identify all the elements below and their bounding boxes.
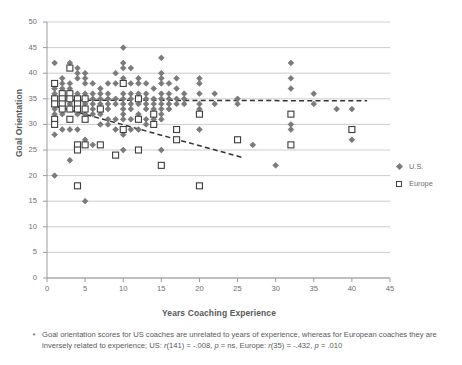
legend-label-europe: Europe [409, 179, 433, 188]
data-point-diamond [212, 101, 218, 107]
data-point-diamond [75, 75, 81, 81]
data-point-diamond [82, 198, 88, 204]
data-point-diamond [113, 81, 119, 87]
legend-item-us[interactable]: U.S. [396, 158, 433, 175]
y-tick-label: 40 [11, 68, 37, 77]
data-point-diamond [197, 91, 203, 97]
data-point-square [97, 142, 103, 148]
data-point-diamond [250, 142, 256, 148]
data-point-diamond [105, 106, 111, 112]
legend-item-europe[interactable]: Europe [396, 175, 433, 192]
data-point-diamond [349, 137, 355, 143]
x-tick-label: 45 [375, 284, 405, 293]
data-point-square [158, 162, 164, 168]
x-tick-label: 5 [70, 284, 100, 293]
data-point-diamond [52, 132, 58, 138]
caption-bullet: * [26, 330, 42, 351]
data-point-square [67, 65, 73, 71]
y-tick-label: 50 [11, 17, 37, 26]
data-point-diamond [158, 147, 164, 153]
data-point-diamond [136, 81, 142, 87]
caption-text: Goal orientation scores for US coaches a… [42, 330, 450, 351]
data-point-diamond [174, 86, 180, 92]
data-point-square [196, 111, 202, 117]
data-point-diamond [212, 91, 218, 97]
data-point-diamond [288, 86, 294, 92]
x-tick-label: 15 [146, 284, 176, 293]
data-point-square [67, 116, 73, 122]
data-point-square [151, 111, 157, 117]
y-tick-label: 30 [11, 119, 37, 128]
data-point-diamond [288, 60, 294, 66]
data-point-diamond [273, 162, 279, 168]
data-point-square [67, 96, 73, 102]
data-point-diamond [311, 101, 317, 107]
x-axis-title: Years Coaching Experience [47, 308, 391, 318]
data-point-diamond [82, 81, 88, 87]
y-tick-label: 20 [11, 171, 37, 180]
data-point-diamond [67, 127, 73, 133]
data-point-diamond [120, 116, 126, 122]
y-tick-label: 25 [11, 145, 37, 154]
data-point-diamond [334, 106, 340, 112]
data-point-square [52, 121, 58, 127]
data-point-diamond [113, 101, 119, 107]
data-point-diamond [235, 101, 241, 107]
data-point-square [82, 116, 88, 122]
caption-line-1: Goal orientation scores for US coaches a… [42, 330, 342, 339]
data-point-diamond [158, 116, 164, 122]
data-point-diamond [288, 75, 294, 81]
data-point-square [52, 80, 58, 86]
y-tick-label: 0 [11, 273, 37, 282]
y-tick-label: 5 [11, 247, 37, 256]
legend-label-us: U.S. [409, 162, 423, 171]
data-point-square [135, 147, 141, 153]
data-point-diamond [136, 127, 142, 133]
caption-line-3c: = .010 [319, 341, 342, 350]
data-point-square [235, 137, 241, 143]
data-point-diamond [197, 81, 203, 87]
scatter-plot-figure: Goal Orientation Years Coaching Experien… [0, 0, 462, 365]
data-point-diamond [97, 122, 103, 128]
caption-line-2c: = ns, [219, 341, 238, 350]
x-tick-label: 10 [108, 284, 138, 293]
data-point-diamond [52, 173, 58, 179]
data-point-diamond [120, 45, 126, 51]
data-point-diamond [143, 122, 149, 128]
data-point-diamond [67, 157, 73, 163]
square-marker-icon [396, 181, 409, 187]
y-tick-label: 15 [11, 196, 37, 205]
data-point-square [74, 147, 80, 153]
data-point-square [82, 96, 88, 102]
data-point-square [151, 121, 157, 127]
data-point-square [97, 106, 103, 112]
data-point-diamond [128, 127, 134, 133]
data-point-diamond [90, 142, 96, 148]
data-point-diamond [151, 86, 157, 92]
data-point-square [174, 127, 180, 133]
caption-line-2b: (141) = -.008, [167, 341, 215, 350]
data-point-diamond [113, 70, 119, 76]
x-tick-label: 25 [223, 284, 253, 293]
data-point-diamond [143, 106, 149, 112]
diamond-marker-icon [396, 164, 409, 169]
x-tick-label: 0 [32, 284, 62, 293]
data-point-square [196, 183, 202, 189]
data-point-diamond [128, 81, 134, 87]
data-point-diamond [113, 127, 119, 133]
data-point-diamond [59, 127, 65, 133]
data-point-diamond [52, 60, 58, 66]
series-europe [52, 65, 355, 189]
x-tick-label: 20 [184, 284, 214, 293]
data-point-square [135, 96, 141, 102]
y-tick-label: 45 [11, 43, 37, 52]
data-point-diamond [197, 127, 203, 133]
data-point-diamond [105, 122, 111, 128]
data-point-square [74, 106, 80, 112]
caption-line-3a: Europe: [240, 341, 269, 350]
data-point-square [67, 106, 73, 112]
data-point-square [288, 111, 294, 117]
data-point-diamond [105, 81, 111, 87]
data-point-square [52, 101, 58, 107]
data-point-diamond [166, 106, 172, 112]
